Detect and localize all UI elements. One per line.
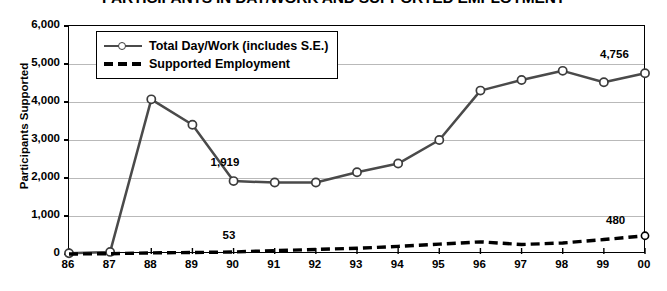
data-point-marker [641, 69, 649, 77]
data-point-marker [188, 121, 196, 129]
x-axis-tick-label: 99 [583, 258, 623, 270]
data-point-marker [559, 67, 567, 75]
data-point-marker [600, 78, 608, 86]
x-axis-tick-label: 96 [459, 258, 499, 270]
x-axis-tick-label: 91 [254, 258, 294, 270]
y-axis-tick-label: 0 [4, 246, 60, 258]
x-axis-tick-label: 89 [171, 258, 211, 270]
legend-label-total-day-work: Total Day/Work (includes S.E.) [149, 39, 328, 53]
data-point-label: 53 [223, 229, 236, 241]
chart-title: PARTICIPANTS IN DAY/WORK AND SUPPORTED E… [0, 0, 667, 7]
legend-item-supported-employment: Supported Employment [104, 55, 328, 73]
data-point-marker [517, 76, 525, 84]
y-axis-tick-label: 3,000 [4, 132, 60, 144]
data-point-marker [147, 95, 155, 103]
chart-screenshot: PARTICIPANTS IN DAY/WORK AND SUPPORTED E… [0, 0, 667, 291]
x-axis-tick-label: 98 [542, 258, 582, 270]
x-axis-tick-label: 97 [501, 258, 541, 270]
data-point-label: 480 [606, 214, 625, 226]
data-point-marker [476, 87, 484, 95]
y-axis-tick-label: 5,000 [4, 56, 60, 68]
legend-item-total-day-work: Total Day/Work (includes S.E.) [104, 37, 328, 55]
y-axis-tick-label: 1,000 [4, 208, 60, 220]
x-axis-tick-label: 94 [377, 258, 417, 270]
y-axis-tick-label: 2,000 [4, 170, 60, 182]
legend-swatch-line-marker [104, 39, 142, 53]
chart-legend: Total Day/Work (includes S.E.) Supported… [96, 31, 338, 79]
x-axis-tick-label: 88 [130, 258, 170, 270]
legend-label-supported-employment: Supported Employment [149, 57, 290, 71]
x-axis-tick-label: 93 [336, 258, 376, 270]
data-point-marker [229, 177, 237, 185]
data-point-label: 4,756 [600, 48, 629, 60]
data-point-marker [271, 178, 279, 186]
data-point-marker [312, 178, 320, 186]
legend-swatch-dashed [104, 57, 142, 71]
data-point-marker [394, 159, 402, 167]
data-point-marker [353, 168, 361, 176]
x-axis-tick-label: 90 [213, 258, 253, 270]
y-axis-tick-label: 6,000 [4, 18, 60, 30]
x-axis-tick-label: 86 [48, 258, 88, 270]
x-axis-tick-label: 87 [89, 258, 129, 270]
data-point-label: 1,919 [211, 156, 240, 168]
x-axis-tick-label: 92 [295, 258, 335, 270]
x-axis-tick-label: 00 [624, 258, 664, 270]
data-point-marker [435, 136, 443, 144]
data-point-marker [641, 232, 648, 239]
x-axis-tick-label: 95 [418, 258, 458, 270]
y-axis-tick-label: 4,000 [4, 94, 60, 106]
